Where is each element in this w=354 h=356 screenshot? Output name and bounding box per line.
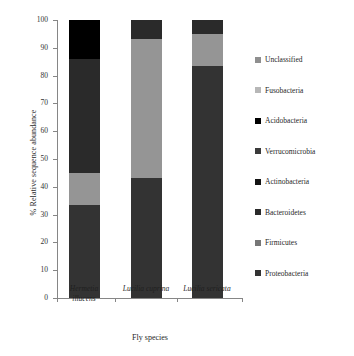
legend-item[interactable]: Fusobacteria [255,86,303,95]
y-axis-tick: 100 [53,20,57,21]
legend-swatch-icon [255,57,261,63]
y-axis-tick: 10 [53,270,57,271]
legend-swatch-icon [255,240,261,246]
legend-item-label: Verrucomicrobia [265,147,315,156]
legend-item-label: Firmicutes [265,238,297,247]
y-axis-tick: 40 [53,187,57,188]
y-axis-tick: 20 [53,242,57,243]
legend-item-label: Acidobacteria [265,116,307,125]
legend-swatch-icon [255,118,261,124]
chart-figure: % Relative sequence abundance 0102030405… [0,0,354,356]
y-axis-tick: 30 [53,215,57,216]
y-axis-tick-label: 10 [41,265,49,274]
legend-item[interactable]: Actinobacteria [255,177,309,186]
x-axis-category-label: Lucilia sericata [164,284,250,294]
stacked-bar[interactable] [192,20,223,298]
y-axis-tick-label: 30 [41,210,49,219]
y-axis-tick: 50 [53,159,57,160]
bar-segment[interactable] [131,20,162,39]
legend-item-label: Bacteroidetes [265,208,306,217]
legend-item-label: Actinobacteria [265,177,309,186]
x-axis-category-label-line: Lucilia sericata [164,284,250,294]
y-axis-tick-label: 60 [41,126,49,135]
y-axis-tick-label: 80 [41,71,49,80]
y-axis-tick-label: 40 [41,182,49,191]
x-axis-tick [177,298,178,302]
legend-item-label: Proteobacteria [265,269,308,278]
stacked-bar[interactable] [69,20,100,298]
legend-item-label: Fusobacteria [265,86,303,95]
bar-segment[interactable] [192,20,223,34]
bar-segment[interactable] [192,66,223,298]
legend-item[interactable]: Acidobacteria [255,116,307,125]
legend-swatch-icon [255,87,261,93]
y-axis-tick-label: 50 [41,154,49,163]
bar-segment[interactable] [69,173,100,205]
y-axis-tick-label: 70 [41,98,49,107]
x-axis-title: Fly species [57,333,243,342]
legend-swatch-icon [255,148,261,154]
bar-segment[interactable] [69,59,100,173]
x-axis-tick [242,298,243,302]
y-axis-tick-label: 100 [37,15,48,24]
y-axis-tick-label: 20 [41,237,49,246]
plot-area: 0102030405060708090100 [57,20,243,298]
legend-item[interactable]: Unclassified [255,55,303,64]
y-axis-tick: 80 [53,76,57,77]
legend-item[interactable]: Firmicutes [255,238,297,247]
legend-swatch-icon [255,209,261,215]
legend-swatch-icon [255,270,261,276]
legend-item[interactable]: Bacteroidetes [255,208,306,217]
legend-item[interactable]: Proteobacteria [255,269,308,278]
bar-segment[interactable] [131,39,162,178]
y-axis-tick: 60 [53,131,57,132]
y-axis-tick: 90 [53,48,57,49]
bar-segment[interactable] [69,20,100,59]
legend-swatch-icon [255,179,261,185]
y-axis-tick: 70 [53,103,57,104]
bar-segment[interactable] [131,178,162,298]
bar-segment[interactable] [192,34,223,66]
stacked-bar[interactable] [131,20,162,298]
x-axis-category-label-line: illucens [41,294,127,304]
y-axis-title: % Relative sequence abundance [29,58,38,268]
y-axis-line [57,20,58,298]
legend-item-label: Unclassified [265,55,303,64]
legend-item[interactable]: Verrucomicrobia [255,147,315,156]
y-axis-tick-label: 90 [41,43,49,52]
